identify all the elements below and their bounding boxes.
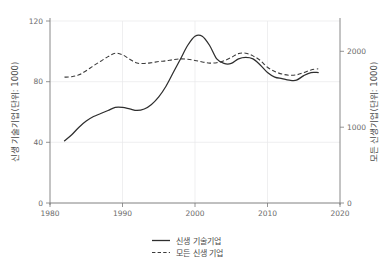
legend-label-tech-startups: 신생 기술기업 xyxy=(176,236,221,246)
gridlines xyxy=(50,21,340,203)
y-axis-left: 120 80 40 0 신생 기술기업(단위: 1000) xyxy=(10,17,50,208)
y-axis-right: 2000 1000 0 모든 신생기업(단위: 1000) xyxy=(340,18,379,208)
y-axis-right-title: 모든 신생기업(단위: 1000) xyxy=(369,62,379,163)
legend-label-all-startups: 모든 신생 기업 xyxy=(176,248,223,258)
y-ticklabel-0: 0 xyxy=(38,199,43,208)
x-axis: 1980 1990 2000 2010 2020 xyxy=(40,203,349,218)
y-ticklabel-80: 80 xyxy=(33,77,43,86)
y2-ticklabel-2000: 2000 xyxy=(347,47,366,56)
y-ticklabel-40: 40 xyxy=(33,138,43,147)
y2-ticklabel-1000: 1000 xyxy=(347,123,366,132)
x-ticklabel-2020: 2020 xyxy=(330,209,349,218)
x-ticklabel-2010: 2010 xyxy=(258,209,277,218)
x-ticklabel-2000: 2000 xyxy=(185,209,204,218)
legend: 신생 기술기업 모든 신생 기업 xyxy=(152,236,223,258)
series-line-tech-startups xyxy=(65,35,319,141)
y2-ticklabel-0: 0 xyxy=(347,199,352,208)
y-ticklabel-120: 120 xyxy=(29,17,44,26)
x-ticklabel-1980: 1980 xyxy=(40,209,59,218)
x-ticklabel-1990: 1990 xyxy=(113,209,132,218)
y-axis-left-title: 신생 기술기업(단위: 1000) xyxy=(10,62,20,163)
line-chart: 120 80 40 0 신생 기술기업(단위: 1000) 2000 1000 … xyxy=(0,0,391,269)
series-line-all-startups xyxy=(65,53,319,77)
